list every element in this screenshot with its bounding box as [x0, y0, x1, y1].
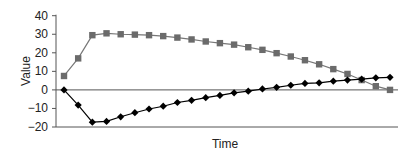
- square-marker: [259, 47, 265, 53]
- series-1: [61, 30, 393, 93]
- y-tick-label: −20: [28, 120, 49, 134]
- y-tick-label: 0: [41, 83, 48, 97]
- square-marker: [188, 36, 194, 42]
- square-marker: [302, 57, 308, 63]
- square-marker: [174, 34, 180, 40]
- y-tick-label: −10: [28, 101, 49, 115]
- y-tick-label: 10: [35, 64, 49, 78]
- diamond-marker: [160, 103, 167, 110]
- diamond-marker: [287, 82, 294, 89]
- diamond-marker: [386, 74, 393, 81]
- series-2: [60, 74, 393, 126]
- diamond-marker: [202, 94, 209, 101]
- square-marker: [373, 83, 379, 89]
- diamond-marker: [316, 79, 323, 86]
- square-marker: [344, 71, 350, 77]
- diamond-marker: [174, 99, 181, 106]
- square-marker: [89, 32, 95, 38]
- series-layer: [60, 30, 393, 126]
- y-axis-title: Value: [19, 56, 33, 86]
- y-tick-label: 30: [35, 27, 49, 41]
- square-marker: [132, 31, 138, 37]
- diamond-marker: [330, 78, 337, 85]
- square-marker: [103, 30, 109, 36]
- diamond-marker: [188, 97, 195, 104]
- square-marker: [231, 41, 237, 47]
- square-marker: [160, 33, 166, 39]
- diamond-marker: [372, 74, 379, 81]
- x-axis-title: Time: [212, 137, 239, 151]
- y-tick-label: 20: [35, 46, 49, 60]
- diamond-marker: [344, 76, 351, 83]
- square-marker: [316, 61, 322, 67]
- diamond-marker: [103, 118, 110, 125]
- square-marker: [245, 44, 251, 50]
- diamond-marker: [145, 105, 152, 112]
- square-marker: [203, 38, 209, 44]
- square-marker: [117, 31, 123, 37]
- diamond-marker: [245, 88, 252, 95]
- y-tick-label: 40: [35, 9, 49, 23]
- diamond-marker: [117, 113, 124, 120]
- square-marker: [61, 73, 67, 79]
- line-chart: 403020100−10−20 Value Time: [0, 0, 413, 160]
- diamond-marker: [131, 109, 138, 116]
- square-marker: [330, 66, 336, 72]
- square-marker: [217, 40, 223, 46]
- square-marker: [273, 50, 279, 56]
- diamond-marker: [301, 80, 308, 87]
- diamond-marker: [216, 92, 223, 99]
- square-marker: [288, 53, 294, 59]
- square-marker: [146, 32, 152, 38]
- square-marker: [387, 87, 393, 93]
- square-marker: [75, 55, 81, 61]
- diamond-marker: [259, 85, 266, 92]
